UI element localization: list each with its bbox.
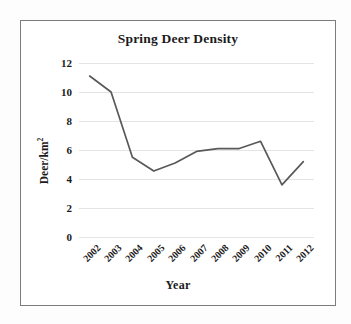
x-axis-tick-label: 2005 <box>145 242 167 264</box>
chart-title: Spring Deer Density <box>21 31 335 47</box>
x-axis-tick-label: 2004 <box>123 242 145 264</box>
x-axis-tick-label: 2011 <box>273 242 295 264</box>
chart-frame: Spring Deer Density Deer/km2 121086420 2… <box>20 20 336 306</box>
y-axis-tick-label: 6 <box>67 144 73 156</box>
figure-canvas: Spring Deer Density Deer/km2 121086420 2… <box>0 0 351 324</box>
y-axis-tick-label: 12 <box>61 57 72 69</box>
x-axis-tick-label: 2010 <box>251 242 273 264</box>
y-axis-tick-label: 2 <box>67 202 73 214</box>
y-axis-title-exponent: 2 <box>36 138 45 142</box>
x-axis-tick-label: 2007 <box>187 242 209 264</box>
x-axis-tick-label: 2008 <box>209 242 231 264</box>
x-axis-tick-label: 2009 <box>230 242 252 264</box>
gridline <box>79 237 314 238</box>
y-axis-tick-label: 4 <box>67 173 73 185</box>
x-axis-title: Year <box>21 278 335 293</box>
x-axis-tick-label: 2002 <box>81 242 103 264</box>
y-axis-title: Deer/km2 <box>36 138 50 185</box>
x-axis-tick-label: 2006 <box>166 242 188 264</box>
data-line-series <box>79 63 314 237</box>
y-axis-title-base: Deer/km <box>38 141 50 184</box>
y-axis-tick-label: 0 <box>67 231 73 243</box>
y-axis-tick-label: 8 <box>67 115 73 127</box>
plot-area: 121086420 200220032004200520062007200820… <box>79 63 314 237</box>
x-axis-tick-label: 2012 <box>294 242 316 264</box>
x-axis-tick-label: 2003 <box>102 242 124 264</box>
y-axis-tick-label: 10 <box>61 86 72 98</box>
